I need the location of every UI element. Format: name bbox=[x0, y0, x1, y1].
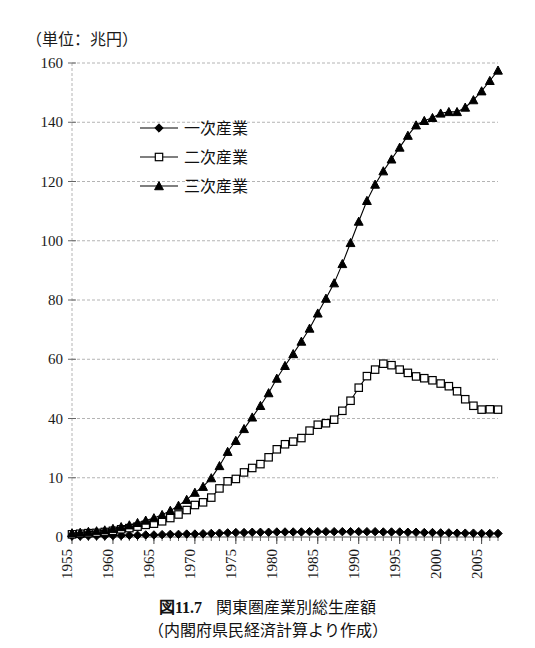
data-point-diamond bbox=[207, 529, 215, 537]
data-point-triangle bbox=[174, 501, 183, 509]
x-axis-tick-label: 1985 bbox=[305, 549, 321, 579]
legend-label: 二次産業 bbox=[184, 148, 248, 167]
chart-plot-area: 1601401201008060401001955196019651970197… bbox=[0, 0, 535, 600]
y-axis-tick-label: 80 bbox=[48, 292, 63, 308]
data-point-diamond bbox=[215, 529, 223, 537]
data-point-diamond bbox=[420, 528, 428, 536]
data-point-triangle bbox=[494, 66, 503, 74]
data-point-triangle bbox=[150, 514, 159, 522]
chart-legend: 一次産業二次産業三次産業 bbox=[140, 119, 248, 196]
data-point-square bbox=[175, 511, 182, 518]
data-point-square bbox=[453, 388, 460, 395]
data-point-diamond bbox=[322, 527, 330, 535]
data-point-square bbox=[437, 380, 444, 387]
data-point-square bbox=[314, 421, 321, 428]
x-axis-tick-label: 1970 bbox=[182, 549, 198, 579]
data-point-diamond bbox=[355, 527, 363, 535]
data-point-square bbox=[273, 446, 280, 453]
data-point-diamond bbox=[150, 531, 158, 539]
data-point-square bbox=[494, 406, 501, 413]
data-point-diamond bbox=[264, 528, 272, 536]
data-point-diamond bbox=[477, 529, 485, 537]
data-point-square bbox=[404, 369, 411, 376]
legend-label: 一次産業 bbox=[184, 119, 248, 138]
caption-title-line: 図11.7関東圏産業別総生産額 bbox=[0, 596, 535, 619]
data-point-diamond bbox=[314, 527, 322, 535]
data-point-diamond bbox=[346, 527, 354, 535]
data-point-diamond bbox=[412, 528, 420, 536]
data-point-square bbox=[355, 384, 362, 391]
data-point-diamond bbox=[395, 528, 403, 536]
data-point-square bbox=[183, 506, 190, 513]
data-point-diamond bbox=[248, 528, 256, 536]
data-point-square bbox=[257, 460, 264, 467]
data-point-diamond bbox=[486, 529, 494, 537]
data-point-square bbox=[298, 434, 305, 441]
data-point-triangle bbox=[248, 413, 257, 421]
data-point-square bbox=[380, 360, 387, 367]
data-point-diamond bbox=[387, 528, 395, 536]
data-point-diamond bbox=[240, 528, 248, 536]
data-point-diamond bbox=[158, 530, 166, 538]
data-point-diamond bbox=[371, 527, 379, 535]
data-point-square bbox=[363, 372, 370, 379]
data-point-square bbox=[347, 397, 354, 404]
data-point-triangle bbox=[297, 337, 306, 345]
data-point-diamond bbox=[281, 528, 289, 536]
data-point-square bbox=[421, 375, 428, 382]
x-axis-tick-label: 1975 bbox=[223, 549, 239, 579]
data-point-square bbox=[388, 361, 395, 368]
data-point-square bbox=[306, 427, 313, 434]
data-point-square bbox=[478, 406, 485, 413]
y-axis-tick-label: 100 bbox=[41, 233, 64, 249]
data-point-diamond bbox=[256, 528, 264, 536]
x-axis-tick-label: 1995 bbox=[387, 549, 403, 579]
data-point-diamond bbox=[289, 528, 297, 536]
data-point-triangle bbox=[395, 143, 404, 151]
data-point-diamond bbox=[297, 528, 305, 536]
data-point-triangle bbox=[240, 424, 249, 432]
data-point-square bbox=[470, 402, 477, 409]
data-point-triangle bbox=[363, 196, 372, 204]
data-point-square bbox=[224, 478, 231, 485]
data-point-triangle bbox=[354, 217, 363, 225]
data-point-diamond bbox=[428, 528, 436, 536]
data-point-square bbox=[330, 416, 337, 423]
y-axis-tick-label: 60 bbox=[48, 351, 63, 367]
x-axis-tick-label: 1965 bbox=[141, 549, 157, 579]
x-axis-tick-label: 1980 bbox=[264, 549, 280, 579]
x-axis-tick-label: 2005 bbox=[469, 549, 485, 579]
data-point-square bbox=[429, 377, 436, 384]
x-axis-tick-label: 1955 bbox=[59, 549, 75, 579]
data-point-triangle bbox=[313, 309, 322, 317]
y-axis-tick-label: 160 bbox=[41, 55, 64, 71]
data-point-diamond bbox=[305, 527, 313, 535]
data-point-diamond bbox=[461, 529, 469, 537]
caption-fig-prefix: 図 bbox=[159, 598, 175, 617]
data-point-square bbox=[462, 396, 469, 403]
data-point-diamond bbox=[436, 529, 444, 537]
data-point-triangle bbox=[190, 488, 199, 496]
data-point-square bbox=[208, 494, 215, 501]
data-point-triangle bbox=[346, 238, 355, 246]
y-axis-tick-label: 0 bbox=[56, 529, 64, 545]
data-point-diamond bbox=[155, 124, 163, 132]
data-point-square bbox=[191, 501, 198, 508]
y-axis-tick-label: 120 bbox=[41, 174, 64, 190]
x-axis-tick-label: 2000 bbox=[428, 549, 444, 579]
data-point-square bbox=[240, 469, 247, 476]
data-point-triangle bbox=[387, 155, 396, 163]
data-point-diamond bbox=[223, 529, 231, 537]
data-point-square bbox=[167, 514, 174, 521]
caption-source: （内閣府県民経済計算より作成） bbox=[0, 619, 535, 642]
caption-title: 関東圏産業別総生産額 bbox=[216, 598, 376, 617]
chart-svg: 1601401201008060401001955196019651970197… bbox=[0, 0, 535, 600]
data-point-triangle bbox=[215, 462, 224, 470]
data-point-triangle bbox=[281, 361, 290, 369]
data-point-square bbox=[155, 153, 162, 160]
series-triangle bbox=[68, 66, 503, 537]
series-line bbox=[72, 364, 498, 535]
x-axis-tick-label: 1990 bbox=[346, 549, 362, 579]
y-axis-tick-label: 40 bbox=[48, 411, 63, 427]
data-point-triangle bbox=[289, 350, 298, 358]
